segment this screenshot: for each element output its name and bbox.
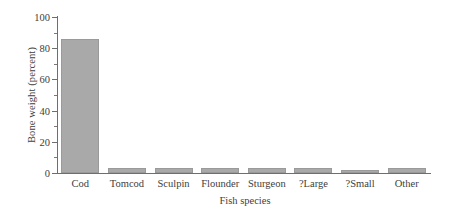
y-tick-label: 100 xyxy=(34,12,50,23)
plot-area: 020406080100 xyxy=(57,17,430,173)
y-tick-mark xyxy=(52,111,57,112)
y-tick-mark xyxy=(52,173,57,174)
bar xyxy=(61,39,99,173)
x-tick-label: ?Large xyxy=(299,178,328,189)
bar xyxy=(294,168,332,173)
y-tick-mark xyxy=(52,17,57,18)
x-tick-label: Tomcod xyxy=(110,178,144,189)
bar xyxy=(248,168,286,173)
y-tick-mark-minor xyxy=(54,64,57,65)
y-tick-mark-minor xyxy=(54,126,57,127)
y-tick-label: 60 xyxy=(40,74,51,85)
y-tick-mark-minor xyxy=(54,95,57,96)
bar xyxy=(341,170,379,173)
y-tick-label: 40 xyxy=(40,105,51,116)
x-tick-label: Flounder xyxy=(201,178,239,189)
x-tick-label: Sculpin xyxy=(158,178,190,189)
x-tick-label: Sturgeon xyxy=(248,178,286,189)
bar xyxy=(201,168,239,173)
x-axis-title: Fish species xyxy=(219,195,270,206)
bar xyxy=(108,168,146,173)
y-tick-label: 80 xyxy=(40,43,51,54)
bar xyxy=(155,168,193,173)
y-tick-mark-minor xyxy=(54,33,57,34)
x-tick-label: Cod xyxy=(72,178,90,189)
y-tick-mark xyxy=(52,48,57,49)
y-axis-title: Bone weight (percent) xyxy=(22,7,42,183)
x-axis-line xyxy=(57,173,431,174)
y-tick-mark-minor xyxy=(54,157,57,158)
y-tick-mark xyxy=(52,142,57,143)
bar-chart-figure: Bone weight (percent) 020406080100 CodTo… xyxy=(0,0,452,216)
x-tick-label: Other xyxy=(395,178,419,189)
y-tick-label: 0 xyxy=(45,168,50,179)
y-tick-label: 20 xyxy=(40,136,51,147)
bar xyxy=(388,168,426,173)
x-tick-label: ?Small xyxy=(345,178,374,189)
y-tick-mark xyxy=(52,79,57,80)
